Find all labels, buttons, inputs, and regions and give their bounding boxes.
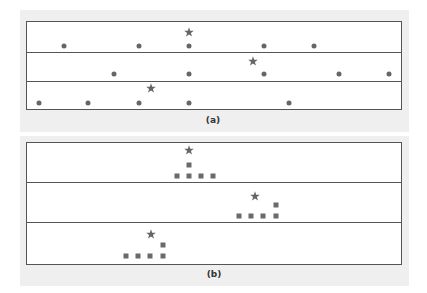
data-point-square <box>237 214 242 219</box>
data-point-dot <box>187 101 192 106</box>
data-point-square <box>187 174 192 179</box>
data-point-square <box>211 174 216 179</box>
data-point-square <box>136 254 141 259</box>
data-point-dot <box>387 72 392 77</box>
data-point-dot <box>262 44 267 49</box>
data-point-square <box>148 254 153 259</box>
data-point-square <box>199 174 204 179</box>
data-point-dot <box>62 44 67 49</box>
data-point-dot <box>86 101 91 106</box>
star-icon <box>184 27 194 37</box>
data-point-square <box>274 214 279 219</box>
data-point-dot <box>112 72 117 77</box>
data-point-square <box>124 254 129 259</box>
data-point-square <box>274 203 279 208</box>
star-icon <box>146 83 156 93</box>
panel-b-frame <box>26 142 402 265</box>
data-point-dot <box>337 72 342 77</box>
star-icon <box>250 191 260 201</box>
star-icon <box>184 145 194 155</box>
row-divider <box>27 222 401 223</box>
row-divider <box>27 182 401 183</box>
row-divider <box>27 81 401 82</box>
data-point-dot <box>137 101 142 106</box>
data-point-dot <box>187 72 192 77</box>
panel-a-frame <box>26 21 402 110</box>
data-point-dot <box>287 101 292 106</box>
data-point-square <box>187 163 192 168</box>
data-point-dot <box>137 44 142 49</box>
data-point-square <box>175 174 180 179</box>
data-point-square <box>161 254 166 259</box>
data-point-dot <box>37 101 42 106</box>
row-divider <box>27 52 401 53</box>
data-point-dot <box>187 44 192 49</box>
panel-a-caption: (a) <box>206 115 220 125</box>
panel-b-caption: (b) <box>207 269 222 279</box>
data-point-dot <box>262 72 267 77</box>
star-icon <box>248 56 258 66</box>
star-icon <box>146 229 156 239</box>
data-point-square <box>249 214 254 219</box>
data-point-square <box>261 214 266 219</box>
data-point-square <box>161 243 166 248</box>
data-point-dot <box>312 44 317 49</box>
